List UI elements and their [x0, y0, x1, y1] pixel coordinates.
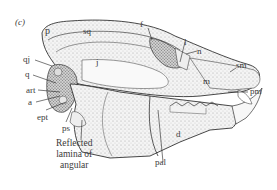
- label-prearticular: ps: [62, 124, 70, 133]
- panel-label: (c): [15, 18, 25, 27]
- label-ectopterygoid: ept: [37, 113, 48, 122]
- label-palatine: pal: [155, 158, 166, 167]
- label-dentary: d: [176, 130, 181, 139]
- label-quadrate: q: [25, 70, 30, 79]
- label-septomaxilla: sm: [236, 61, 247, 70]
- label-nasal: n: [197, 47, 202, 56]
- label-angular: a: [28, 98, 32, 107]
- skull-diagram: (c) p sq f l n sm qj q j m pm art a ept …: [0, 0, 277, 190]
- label-premaxilla: pm: [250, 87, 262, 96]
- label-jugal: j: [96, 58, 99, 67]
- caption-line: lamina of: [56, 149, 92, 160]
- label-frontal: f: [140, 20, 143, 29]
- label-lacrimal: l: [184, 38, 187, 47]
- skull-illustration: [0, 0, 277, 190]
- caption-line: Reflected: [56, 138, 92, 149]
- label-parietal: p: [45, 26, 50, 35]
- caption-reflected-lamina: Reflected lamina of angular: [56, 138, 92, 171]
- caption-line: angular: [56, 160, 92, 171]
- label-quadratojugal: qj: [23, 55, 30, 64]
- label-squamosal: sq: [83, 27, 91, 36]
- label-articular: art: [26, 86, 36, 95]
- label-maxilla: m: [203, 77, 210, 86]
